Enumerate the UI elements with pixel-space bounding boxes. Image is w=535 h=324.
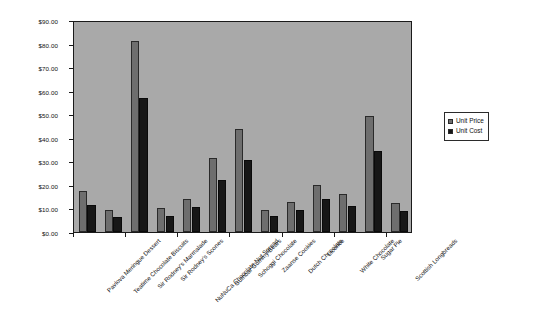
y-tick-label: $10.00 bbox=[38, 206, 58, 213]
bar-unit-cost bbox=[113, 217, 121, 232]
y-tick-label: $20.00 bbox=[38, 182, 58, 189]
x-axis-label: Schoggi Chocolate bbox=[256, 237, 298, 279]
bar-unit-cost bbox=[348, 206, 356, 232]
x-axis-label: Zaanse Cookies bbox=[280, 237, 317, 274]
bars-layer bbox=[74, 22, 411, 232]
bar-unit-price bbox=[391, 203, 399, 232]
bar-unit-cost bbox=[400, 211, 408, 232]
bar-group bbox=[309, 22, 335, 232]
x-axis-label: NuNuCa Chocolate-Nut Spread bbox=[214, 237, 280, 303]
y-tick-label: $40.00 bbox=[38, 135, 58, 142]
x-tick-mark bbox=[125, 233, 126, 237]
bar-group bbox=[335, 22, 361, 232]
x-axis-label: Scottish Longbreads bbox=[414, 237, 459, 282]
x-axis-label: Licorice bbox=[325, 237, 345, 257]
legend-swatch-icon-unit-price bbox=[448, 119, 453, 124]
bar-group bbox=[152, 22, 178, 232]
x-axis-label: Dutch Chocolate bbox=[306, 237, 343, 274]
y-tick-label: $80.00 bbox=[38, 41, 58, 48]
x-axis-label: Sugar Pie bbox=[379, 237, 403, 261]
legend-label-unit-cost: Unit Cost bbox=[456, 128, 482, 134]
bar-unit-price bbox=[157, 208, 165, 232]
bar-group bbox=[361, 22, 387, 232]
bar-unit-cost bbox=[244, 160, 252, 232]
bar-unit-cost bbox=[166, 216, 174, 232]
x-axis-label: Teatime Chocolate Biscuits bbox=[132, 237, 190, 295]
bar-unit-cost bbox=[87, 205, 95, 232]
bar-group bbox=[387, 22, 412, 232]
y-axis: $0.00$10.00$20.00$30.00$40.00$50.00$60.0… bbox=[0, 0, 68, 324]
bar-chart: $0.00$10.00$20.00$30.00$40.00$50.00$60.0… bbox=[0, 0, 535, 324]
bar-unit-price bbox=[183, 199, 191, 232]
bar-unit-cost bbox=[192, 207, 200, 232]
bar-unit-price bbox=[313, 185, 321, 232]
bar-group bbox=[230, 22, 256, 232]
bar-unit-cost bbox=[322, 199, 330, 232]
x-tick-mark bbox=[73, 233, 74, 237]
y-tick-label: $70.00 bbox=[38, 65, 58, 72]
legend-label-unit-price: Unit Price bbox=[456, 118, 484, 124]
y-tick-label: $60.00 bbox=[38, 88, 58, 95]
bar-group bbox=[126, 22, 152, 232]
legend-swatch-icon-unit-cost bbox=[448, 129, 453, 134]
bar-unit-cost bbox=[139, 98, 147, 232]
bar-group bbox=[74, 22, 100, 232]
legend: Unit Price Unit Cost bbox=[444, 112, 489, 141]
y-tick-label: $30.00 bbox=[38, 159, 58, 166]
x-axis-label: White Chocolate bbox=[358, 237, 395, 274]
bar-group bbox=[204, 22, 230, 232]
bar-unit-price bbox=[209, 158, 217, 232]
bar-unit-price bbox=[365, 116, 373, 232]
x-tick-mark bbox=[177, 233, 178, 237]
bar-unit-price bbox=[287, 202, 295, 232]
x-axis-label: Sir Rodney's Marmalade bbox=[156, 237, 209, 290]
legend-item-unit-price: Unit Price bbox=[448, 117, 484, 126]
bar-group bbox=[178, 22, 204, 232]
bar-unit-cost bbox=[374, 151, 382, 232]
legend-item-unit-cost: Unit Cost bbox=[448, 127, 484, 136]
plot-area bbox=[73, 21, 412, 233]
bar-unit-price bbox=[261, 210, 269, 232]
x-axis-label: Sir Rodney's Scones bbox=[179, 237, 224, 282]
bar-group bbox=[283, 22, 309, 232]
bar-unit-price bbox=[105, 210, 113, 232]
y-tick-label: $90.00 bbox=[38, 18, 58, 25]
bar-group bbox=[257, 22, 283, 232]
x-axis-label: Pavlova Meringue Dessert bbox=[105, 237, 161, 293]
bar-unit-cost bbox=[296, 210, 304, 232]
x-axis-label: Gumbar Gummy Bears bbox=[233, 237, 283, 287]
bar-unit-cost bbox=[270, 216, 278, 232]
x-tick-mark bbox=[386, 233, 387, 237]
bar-unit-price bbox=[131, 41, 139, 232]
bar-group bbox=[100, 22, 126, 232]
y-tick-label: $0.00 bbox=[42, 230, 58, 237]
x-tick-mark bbox=[282, 233, 283, 237]
bar-unit-cost bbox=[218, 180, 226, 232]
x-tick-mark bbox=[334, 233, 335, 237]
y-tick-label: $50.00 bbox=[38, 112, 58, 119]
bar-unit-price bbox=[79, 191, 87, 232]
bar-unit-price bbox=[235, 129, 243, 232]
bar-unit-price bbox=[339, 194, 347, 232]
x-tick-mark bbox=[229, 233, 230, 237]
y-tick-mark bbox=[69, 233, 73, 234]
